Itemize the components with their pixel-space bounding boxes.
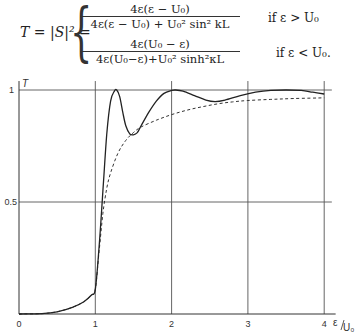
condition-above: if ε > U₀ — [268, 11, 319, 25]
x-axis-label-u0: U₀ — [343, 322, 354, 333]
grid-lines — [19, 81, 332, 314]
denominator: 4ε(U₀−ε)+U₀² sinh²κL — [80, 51, 240, 66]
denominator: 4ε(ε − U₀) + U₀² sin² kL — [80, 16, 240, 31]
axis-labels: 0123410.5TεU₀ — [4, 78, 354, 333]
x-tick-label: 0 — [16, 319, 21, 329]
transmission-chart: 0123410.5TεU₀ — [0, 75, 356, 334]
axes — [19, 81, 336, 314]
fraction-case-above-barrier: 4ε(ε − U₀) 4ε(ε − U₀) + U₀² sin² kL — [80, 2, 240, 31]
condition-below: if ε < U₀. — [276, 46, 331, 60]
numerator: 4ε(ε − U₀) — [80, 2, 240, 16]
fraction-case-below-barrier: 4ε(U₀ − ε) 4ε(U₀−ε)+U₀² sinh²κL — [80, 37, 240, 66]
y-axis-label: T — [22, 78, 29, 89]
numerator: 4ε(U₀ − ε) — [80, 37, 240, 51]
y-tick-label: 1 — [9, 85, 14, 95]
transmission-formula: T = |S|² = { 4ε(ε − U₀) 4ε(ε − U₀) + U₀²… — [0, 0, 356, 70]
x-axis-label-epsilon: ε — [333, 317, 338, 328]
x-tick-label: 1 — [93, 319, 98, 329]
x-tick-label: 4 — [322, 319, 327, 329]
y-tick-label: 0.5 — [4, 197, 17, 207]
x-tick-label: 2 — [169, 319, 174, 329]
x-tick-label: 3 — [245, 319, 250, 329]
